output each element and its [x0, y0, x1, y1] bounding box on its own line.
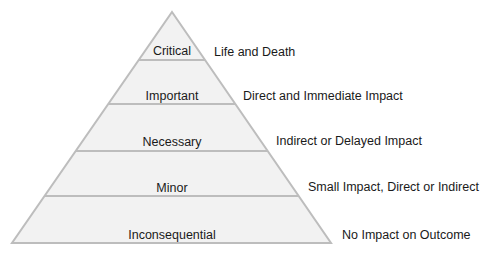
tier-description-critical: Life and Death [214, 45, 295, 59]
tier-description-inconsequential: No Impact on Outcome [342, 228, 471, 242]
tier-label-important: Important [146, 89, 199, 103]
tier-label-inconsequential: Inconsequential [128, 228, 216, 242]
tier-description-minor: Small Impact, Direct or Indirect [308, 180, 479, 194]
tier-label-minor: Minor [156, 181, 187, 195]
tier-label-necessary: Necessary [142, 135, 202, 149]
tier-description-necessary: Indirect or Delayed Impact [276, 134, 422, 148]
tier-description-important: Direct and Immediate Impact [243, 89, 403, 103]
pyramid-diagram: Critical Important Necessary Minor Incon… [0, 0, 498, 257]
tier-label-critical: Critical [153, 44, 191, 58]
